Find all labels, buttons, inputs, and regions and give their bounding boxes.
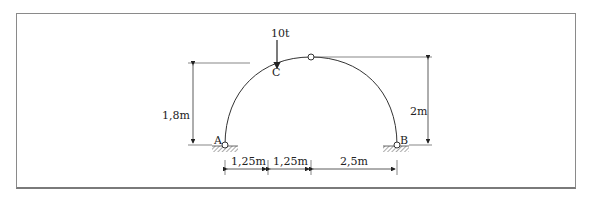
point-c-label: C	[272, 66, 280, 79]
dim-span-1: 1,25m	[231, 155, 266, 168]
arch-curve	[225, 57, 397, 145]
point-a-label: A	[213, 134, 223, 147]
dim-height-crown: 2m	[410, 105, 428, 118]
hinge-crown-icon	[308, 54, 314, 60]
arch-diagram: 10t C A B 1,8m 2m 1,25m 1,25m 2,5m	[0, 0, 594, 197]
hinge-a-icon	[222, 142, 228, 148]
point-b-label: B	[400, 134, 408, 147]
load-label: 10t	[271, 27, 290, 40]
dim-height-c: 1,8m	[162, 109, 190, 122]
dim-span-3: 2,5m	[340, 155, 368, 168]
dim-span-2: 1,25m	[273, 155, 308, 168]
